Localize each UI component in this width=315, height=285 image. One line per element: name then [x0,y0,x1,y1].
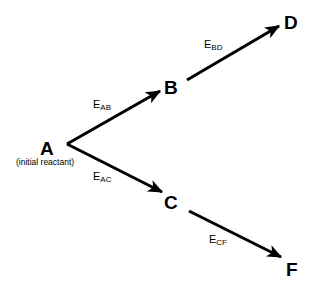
edge-label-ac: EAC [93,170,112,184]
edge-label-cf: ECF [209,233,227,247]
arrow-a-to-b [67,91,160,144]
node-a-note: (initial reactant) [16,157,74,167]
arrow-c-to-f [189,211,281,257]
edge-label-ab: EAB [93,98,111,112]
arrow-a-to-c [67,144,162,192]
node-d: D [284,12,298,33]
edge-label-bd: EBD [204,38,223,52]
node-f: F [286,259,298,280]
node-b: B [164,77,178,98]
node-a: A [40,138,54,159]
arrow-b-to-d [187,26,279,80]
reaction-pathway-diagram: EAB EBD EAC ECF A (initial reactant) B C… [0,0,315,285]
node-c: C [164,192,178,213]
